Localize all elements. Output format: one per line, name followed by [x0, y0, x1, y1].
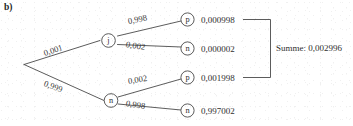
node-label-jn: n — [181, 42, 195, 56]
edge-line-j-p — [118, 21, 182, 36]
outcome-value-jn: 0,000002 — [201, 44, 235, 54]
tree-diagram-lines — [0, 0, 353, 126]
node-label-jp: p — [181, 13, 195, 27]
outcome-value-jp: 0,000998 — [201, 15, 235, 25]
outcome-value-np: 0,001998 — [201, 73, 235, 83]
sum-bracket — [243, 20, 271, 78]
edge-line-root-n — [24, 65, 104, 101]
outcome-value-nn: 0,997002 — [201, 106, 235, 116]
node-label-nn: n — [181, 104, 195, 118]
node-label-n: n — [104, 94, 118, 108]
sum-annotation: Summe: 0,002996 — [276, 43, 342, 54]
edge-line-root-j — [24, 41, 100, 65]
node-label-j: j — [102, 34, 116, 48]
tree-diagram-figure: b) j n p n p n 0,001 0,999 0,998 0,002 0… — [0, 0, 353, 126]
part-label: b) — [4, 2, 12, 13]
node-label-np: p — [181, 71, 195, 85]
